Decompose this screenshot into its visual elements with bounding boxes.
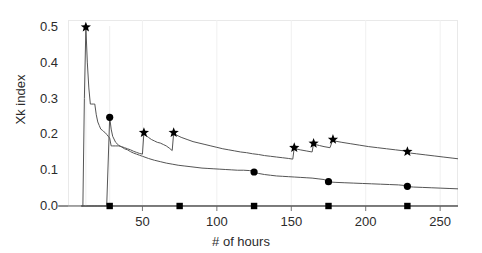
data-marker-circle: [250, 168, 257, 175]
y-axis-label: Xk index: [13, 60, 28, 140]
series-markers: [81, 22, 413, 209]
series-lines: [81, 27, 458, 206]
data-marker-square: [176, 203, 182, 209]
y-tick-label: 0.2: [24, 126, 58, 141]
data-marker-square: [106, 203, 112, 209]
data-marker-star: [328, 134, 338, 144]
chart-figure: 0.00.10.20.30.40.5 50100150200250 Xk ind…: [0, 0, 482, 253]
data-marker-square: [404, 203, 410, 209]
x-tick-label: 150: [269, 214, 313, 229]
series-line-upper-curve: [81, 27, 458, 206]
y-tick-label: 0.5: [24, 19, 58, 34]
y-tick-label: 0.4: [24, 55, 58, 70]
x-tick-label: 250: [418, 214, 462, 229]
x-tick-label: 50: [120, 214, 164, 229]
data-marker-square: [251, 203, 257, 209]
data-marker-circle: [404, 183, 411, 190]
data-marker-square: [325, 203, 331, 209]
y-tick-label: 0.3: [24, 91, 58, 106]
series-line-lower-curve: [81, 117, 458, 206]
data-marker-circle: [325, 178, 332, 185]
y-tick-label: 0.0: [24, 198, 58, 213]
x-tick-label: 200: [344, 214, 388, 229]
data-marker-circle: [106, 114, 113, 121]
data-marker-star: [402, 146, 412, 156]
chart-canvas: [0, 0, 482, 253]
y-tick-label: 0.1: [24, 162, 58, 177]
x-tick-marks: [86, 26, 440, 211]
x-axis-label: # of hours: [0, 234, 482, 249]
x-tick-label: 100: [195, 214, 239, 229]
gridlines: [142, 20, 440, 206]
